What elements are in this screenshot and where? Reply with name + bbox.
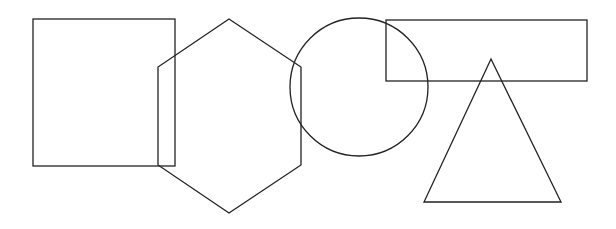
hexagon-shape (158, 19, 301, 213)
shapes-diagram (0, 0, 616, 229)
circle-shape (290, 18, 428, 156)
rectangle-shape (386, 20, 587, 81)
square-shape (33, 19, 175, 166)
